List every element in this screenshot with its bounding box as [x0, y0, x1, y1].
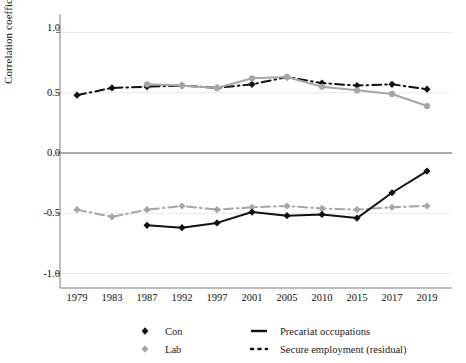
- data-point: [249, 75, 255, 81]
- data-point: [73, 206, 80, 213]
- data-point: [423, 202, 430, 209]
- data-point: [389, 91, 395, 97]
- y-tick-2: 0.5: [26, 88, 60, 99]
- data-point: [143, 206, 150, 213]
- data-point: [424, 103, 430, 109]
- data-point: [108, 84, 115, 91]
- y-axis-title: Correlation coefficient: [2, 0, 14, 118]
- data-point: [213, 206, 220, 213]
- data-point: [108, 213, 115, 220]
- legend-measure-column: Precariat occupations Secure employment …: [246, 322, 466, 358]
- data-point: [284, 74, 290, 80]
- y-tick-4: -0.5: [26, 208, 60, 219]
- y-tick-1: 1.0: [26, 23, 60, 34]
- y-tick-3: 0.0: [26, 148, 60, 159]
- data-point: [178, 202, 185, 209]
- data-point: [213, 219, 220, 226]
- legend-item-secure: Secure employment (residual): [246, 340, 466, 358]
- x-tick-2019: 2019: [404, 292, 450, 303]
- chart-legend: Con Lab Precariat occupations: [0, 322, 466, 363]
- data-point: [248, 208, 255, 215]
- legend-item-lab: Lab: [131, 340, 251, 358]
- solid-line-icon: [246, 325, 274, 337]
- legend-label-con: Con: [165, 326, 183, 337]
- series-line: [147, 77, 427, 106]
- plot-area: [0, 0, 466, 363]
- data-point: [388, 204, 395, 211]
- legend-item-con: Con: [131, 322, 251, 340]
- data-point: [178, 224, 185, 231]
- con-marker-icon: [131, 325, 159, 337]
- correlation-coefficient-chart: Correlation coefficient 1.0 0.5 0.0 -0.5…: [0, 0, 466, 363]
- legend-item-precariat: Precariat occupations: [246, 322, 466, 340]
- data-point: [214, 85, 220, 91]
- data-point: [388, 81, 395, 88]
- data-point: [179, 82, 185, 88]
- data-point: [318, 211, 325, 218]
- legend-label-precariat: Precariat occupations: [280, 326, 370, 337]
- lab-marker-icon: [131, 343, 159, 355]
- legend-label-lab: Lab: [165, 344, 181, 355]
- dotted-line-icon: [246, 343, 274, 355]
- data-point: [423, 86, 430, 93]
- y-axis-tick-labels: 1.0 0.5 0.0 -0.5 -1.0: [22, 0, 60, 363]
- data-point: [319, 84, 325, 90]
- y-tick-5: -1.0: [26, 269, 60, 280]
- data-point: [283, 202, 290, 209]
- data-point: [354, 87, 360, 93]
- legend-label-secure: Secure employment (residual): [280, 344, 407, 355]
- data-point: [143, 222, 150, 229]
- data-point: [144, 81, 150, 87]
- legend-party-column: Con Lab: [131, 322, 251, 358]
- data-point: [248, 81, 255, 88]
- data-point: [353, 206, 360, 213]
